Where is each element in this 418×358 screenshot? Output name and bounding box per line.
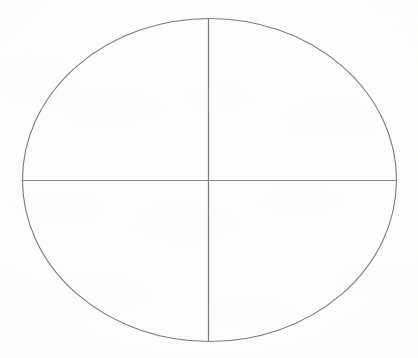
- quadrant-top-left: [23, 19, 210, 181]
- quadrant-bottom-left: [23, 180, 210, 342]
- figure-canvas: [0, 0, 418, 358]
- quadrant-top-right: [210, 19, 397, 181]
- quadrant-bottom-right: [210, 180, 397, 342]
- quadrant-circle-figure: [0, 0, 418, 358]
